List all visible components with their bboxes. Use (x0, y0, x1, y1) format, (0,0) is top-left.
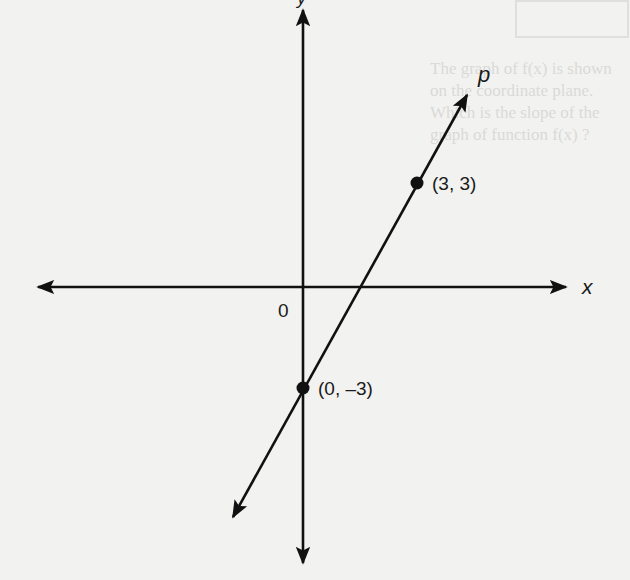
point-3-3 (411, 177, 424, 190)
point-0-neg3 (297, 382, 310, 395)
y-axis-label: y (297, 0, 307, 7)
origin-label: 0 (278, 301, 289, 320)
point-label-0-neg3: (0, –3) (318, 379, 373, 398)
line-p (233, 95, 467, 517)
x-axis-label: x (582, 276, 593, 297)
line-p-label: p (478, 64, 490, 86)
point-label-3-3: (3, 3) (432, 174, 476, 193)
